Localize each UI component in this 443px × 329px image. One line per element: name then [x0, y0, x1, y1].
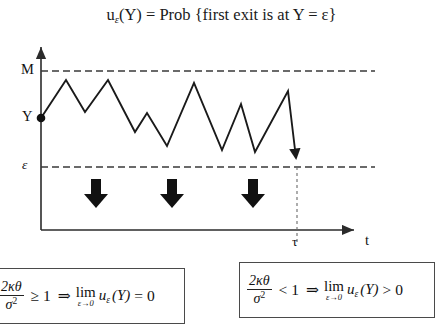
downward-arrow-group	[84, 179, 265, 208]
fraction-denominator: σ2	[251, 290, 267, 306]
fraction-denominator: σ2	[3, 296, 19, 312]
formula-result: > 0	[383, 281, 403, 299]
limit-operator: lim ε→0	[76, 285, 96, 308]
y-tick-label-Y: Y	[22, 108, 32, 125]
y-tick-label-epsilon: ε	[22, 157, 27, 173]
limit-subscript: ε→0	[78, 299, 94, 308]
formula-box-left: 2κθ σ2 ≥ 1 ⇒ lim ε→0 uε (Y) = 0	[0, 268, 185, 324]
formula-box-right: 2κθ σ2 < 1 ⇒ lim ε→0 uε (Y) > 0	[239, 262, 435, 318]
downward-arrow	[84, 179, 108, 208]
fraction-left: 2κθ σ2	[0, 280, 24, 313]
fraction-right: 2κθ σ2	[247, 274, 272, 307]
function-term: uε	[99, 287, 110, 305]
relation-operator: ≥ 1	[31, 287, 51, 305]
diagram-canvas: uε(Y) = Prob {first exit is at Y = ε}	[0, 0, 443, 329]
limit-subscript: ε→0	[326, 293, 342, 302]
formula-right: 2κθ σ2 < 1 ⇒ lim ε→0 uε (Y) > 0	[247, 274, 405, 307]
relation-operator: < 1	[279, 281, 299, 299]
stochastic-sample-path	[41, 80, 296, 158]
start-point-marker	[37, 114, 46, 123]
fraction-numerator: 2κθ	[0, 280, 24, 295]
stochastic-path-plot	[0, 0, 443, 260]
limit-operator: lim ε→0	[324, 279, 344, 302]
x-tick-label-tau: τ	[292, 234, 297, 250]
function-term: uε	[347, 281, 358, 299]
formula-left: 2κθ σ2 ≥ 1 ⇒ lim ε→0 uε (Y) = 0	[0, 280, 157, 313]
implies-operator: ⇒	[58, 287, 71, 305]
downward-arrow	[241, 179, 265, 208]
implies-operator: ⇒	[306, 281, 319, 299]
y-tick-label-M: M	[21, 61, 34, 78]
x-axis-label: t	[365, 232, 369, 249]
fraction-numerator: 2κθ	[247, 274, 272, 289]
function-argument: (Y)	[112, 287, 130, 304]
formula-result: = 0	[134, 287, 154, 305]
function-argument: (Y)	[360, 281, 378, 298]
downward-arrow	[160, 179, 184, 208]
